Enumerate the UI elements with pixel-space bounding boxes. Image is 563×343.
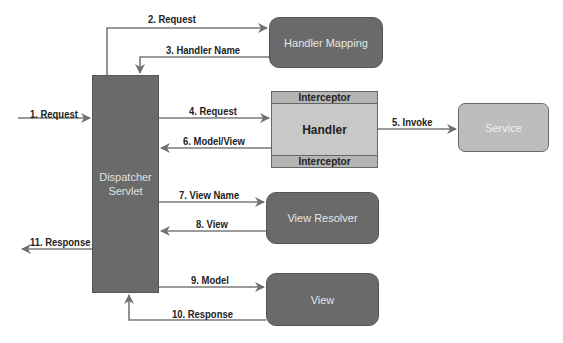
- dispatcher-label-line1: Dispatcher: [92, 170, 159, 184]
- arrow-3-handler-name: [140, 57, 269, 73]
- view-box: View: [266, 273, 379, 326]
- label-1-request: 1. Request: [30, 108, 78, 120]
- view-resolver-box: View Resolver: [266, 192, 379, 244]
- service-label: Service: [485, 122, 522, 134]
- label-6-model-view: 6. Model/View: [183, 135, 245, 147]
- label-7-view-name: 7. View Name: [179, 189, 239, 201]
- label-2-request: 2. Request: [148, 13, 196, 25]
- handler-label: Handler: [272, 104, 377, 155]
- interceptor-bottom: Interceptor: [272, 155, 377, 167]
- view-resolver-label: View Resolver: [287, 212, 357, 224]
- spring-mvc-flow-diagram: Dispatcher Servlet Handler Mapping Inter…: [0, 0, 563, 343]
- label-11-response: 11. Response: [30, 236, 90, 248]
- handler-mapping-box: Handler Mapping: [269, 17, 383, 68]
- label-10-response: 10. Response: [172, 308, 233, 320]
- view-label: View: [311, 294, 335, 306]
- label-8-view: 8. View: [196, 218, 228, 230]
- label-9-model: 9. Model: [191, 274, 229, 286]
- label-3-handler-name: 3. Handler Name: [166, 44, 240, 56]
- dispatcher-label-line2: Servlet: [92, 184, 159, 198]
- interceptor-top: Interceptor: [272, 92, 377, 104]
- handler-box: Interceptor Handler Interceptor: [271, 91, 378, 168]
- dispatcher-servlet-label: Dispatcher Servlet: [92, 170, 159, 198]
- label-5-invoke: 5. Invoke: [392, 116, 432, 128]
- service-box: Service: [458, 103, 549, 152]
- handler-mapping-label: Handler Mapping: [284, 37, 368, 49]
- label-4-request: 4. Request: [189, 105, 237, 117]
